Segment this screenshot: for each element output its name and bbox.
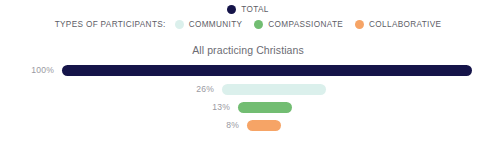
- legend-item-total[interactable]: TOTAL: [227, 5, 268, 14]
- legend-prefix-label: TYPES OF PARTICIPANTS:: [55, 20, 166, 29]
- legend-label-collaborative: COLLABORATIVE: [369, 20, 441, 29]
- legend-item-compassionate[interactable]: COMPASSIONATE: [254, 20, 343, 29]
- bar-compassionate[interactable]: [238, 102, 292, 113]
- legend-label-compassionate: COMPASSIONATE: [268, 20, 343, 29]
- legend-swatch-collaborative-icon: [355, 20, 364, 29]
- bar-chart-plot: 100% 26% 13% 8%: [0, 63, 496, 147]
- bar-collaborative[interactable]: [247, 120, 281, 131]
- bar-row-collaborative: 8%: [0, 118, 496, 133]
- legend-swatch-community-icon: [175, 20, 184, 29]
- legend-item-community[interactable]: COMMUNITY: [175, 20, 243, 29]
- legend-swatch-total-icon: [227, 5, 236, 14]
- bar-row-total: 100%: [0, 63, 496, 78]
- bar-row-community: 26%: [0, 82, 496, 97]
- legend-label-community: COMMUNITY: [189, 20, 243, 29]
- bar-row-compassionate: 13%: [0, 100, 496, 115]
- bar-value-community: 26%: [196, 82, 214, 97]
- chart-legend: TOTAL TYPES OF PARTICIPANTS: COMMUNITY C…: [0, 0, 496, 31]
- legend-swatch-compassionate-icon: [254, 20, 263, 29]
- bar-value-total: 100%: [31, 63, 54, 78]
- legend-label-total: TOTAL: [241, 5, 268, 14]
- legend-row-total: TOTAL: [0, 2, 496, 16]
- legend-item-collaborative[interactable]: COLLABORATIVE: [355, 20, 441, 29]
- bar-value-collaborative: 8%: [226, 118, 239, 133]
- bar-community[interactable]: [222, 84, 326, 95]
- bar-value-compassionate: 13%: [212, 100, 230, 115]
- legend-row-participant-types: TYPES OF PARTICIPANTS: COMMUNITY COMPASS…: [0, 17, 496, 31]
- bar-total[interactable]: [62, 65, 472, 76]
- chart-title: All practicing Christians: [0, 44, 496, 56]
